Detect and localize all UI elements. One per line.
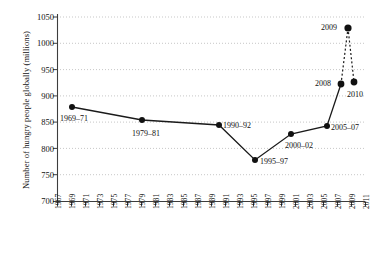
data-point-1969-71 bbox=[69, 104, 75, 110]
data-point-1995-97 bbox=[252, 157, 258, 163]
x-tick-1977: 1977 bbox=[125, 194, 133, 209]
annotation-2008: 2008 bbox=[315, 80, 331, 88]
y-tick-750: 750 bbox=[20, 171, 54, 180]
annotation-1990-92: 1990–92 bbox=[223, 122, 251, 130]
data-point-2008 bbox=[338, 81, 345, 88]
annotation-1979-81: 1979–81 bbox=[132, 130, 160, 138]
series-line-annual-dotted bbox=[341, 28, 354, 84]
x-tick-2007: 2007 bbox=[335, 194, 343, 209]
y-axis-tick-labels: 1050 1000 950 900 850 800 750 700 bbox=[14, 0, 54, 253]
annotation-2000-02: 2000–02 bbox=[285, 142, 313, 150]
x-tick-1987: 1987 bbox=[195, 194, 203, 209]
y-tick-700: 700 bbox=[20, 197, 54, 206]
x-tick-1999: 1999 bbox=[279, 194, 287, 209]
x-tick-1971: 1971 bbox=[83, 194, 91, 209]
x-tick-2003: 2003 bbox=[307, 194, 315, 209]
x-tick-1969: 1969 bbox=[69, 194, 77, 209]
axis-lines bbox=[57, 14, 365, 202]
x-tick-1993: 1993 bbox=[237, 194, 245, 209]
annotation-1969-71: 1969–71 bbox=[60, 115, 88, 123]
x-tick-1967: 1967 bbox=[55, 194, 63, 209]
y-tick-1050: 1050 bbox=[20, 13, 54, 22]
x-tick-2011: 2011 bbox=[363, 194, 371, 209]
x-tick-1981: 1981 bbox=[153, 194, 161, 209]
data-point-2009 bbox=[344, 24, 351, 31]
x-tick-2005: 2005 bbox=[321, 194, 329, 209]
data-point-1979-81 bbox=[139, 117, 145, 123]
x-tick-2009: 2009 bbox=[349, 194, 357, 209]
data-point-2005-07 bbox=[324, 123, 330, 129]
annotation-1995-97: 1995–97 bbox=[260, 158, 288, 166]
y-tick-850: 850 bbox=[20, 118, 54, 127]
annotation-2010: 2010 bbox=[347, 91, 363, 99]
x-tick-1991: 1991 bbox=[223, 194, 231, 209]
x-tick-1979: 1979 bbox=[139, 194, 147, 209]
x-tick-1995: 1995 bbox=[251, 194, 259, 209]
x-tick-1985: 1985 bbox=[181, 194, 189, 209]
gridlines bbox=[57, 17, 365, 175]
annotation-2005-07: 2005–07 bbox=[331, 124, 359, 132]
x-tick-1975: 1975 bbox=[111, 194, 119, 209]
x-tick-1983: 1983 bbox=[167, 194, 175, 209]
data-point-1990-92 bbox=[216, 122, 222, 128]
y-tick-1000: 1000 bbox=[20, 39, 54, 48]
plot-area bbox=[0, 0, 377, 253]
x-tick-2001: 2001 bbox=[293, 194, 301, 209]
x-tick-1989: 1989 bbox=[209, 194, 217, 209]
chart-container: Number of hungry people globally (millio… bbox=[0, 0, 377, 253]
data-point-markers bbox=[69, 24, 357, 163]
x-tick-1973: 1973 bbox=[97, 194, 105, 209]
data-point-2000-02 bbox=[288, 131, 294, 137]
y-tick-950: 950 bbox=[20, 66, 54, 75]
y-tick-800: 800 bbox=[20, 145, 54, 154]
annotation-2009: 2009 bbox=[321, 24, 337, 32]
y-tick-900: 900 bbox=[20, 92, 54, 101]
data-point-2010 bbox=[351, 79, 358, 86]
x-tick-1997: 1997 bbox=[265, 194, 273, 209]
